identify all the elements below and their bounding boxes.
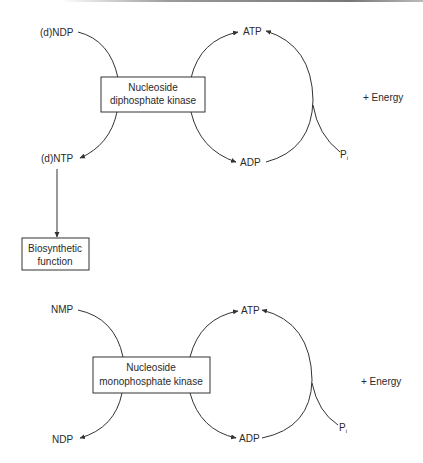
- label-dntp: (d)NTP: [41, 153, 74, 164]
- label-adp: ADP: [240, 157, 261, 168]
- cycle-left-upper-arc: [191, 32, 238, 78]
- label-atp: ATP: [243, 26, 262, 37]
- biosynthetic-label-line2: function: [37, 256, 72, 267]
- label-nmp: NMP: [51, 304, 74, 315]
- phosphate-arc: [312, 383, 338, 425]
- label-adp: ADP: [239, 433, 260, 444]
- enzyme-label-line1: Nucleoside: [126, 362, 176, 373]
- cycle-right-arc: [262, 310, 312, 438]
- substrate-arc: [78, 310, 123, 357]
- panel-nucleoside-monophosphate-kinase: Nucleoside monophosphate kinase NMP NDP …: [51, 304, 401, 445]
- label-pi: Pi: [340, 149, 348, 161]
- product-arc: [80, 112, 117, 158]
- label-ndp: NDP: [52, 434, 73, 445]
- label-pi: Pi: [339, 422, 347, 434]
- label-energy: + Energy: [363, 92, 403, 103]
- cycle-left-upper-arc: [190, 311, 238, 357]
- phosphate-arc: [313, 105, 340, 152]
- substrate-arc: [78, 32, 118, 78]
- kinase-diagram: Nucleoside diphosphate kinase (d)NDP (d)…: [0, 0, 423, 463]
- enzyme-label-line2: monophosphate kinase: [99, 376, 203, 387]
- label-atp: ATP: [241, 305, 260, 316]
- panel-nucleoside-diphosphate-kinase: Nucleoside diphosphate kinase (d)NDP (d)…: [22, 26, 403, 270]
- product-arc: [80, 393, 122, 438]
- biosynthetic-label-line1: Biosynthetic: [28, 243, 82, 254]
- label-energy: + Energy: [361, 376, 401, 387]
- cycle-right-arc: [266, 31, 313, 162]
- enzyme-label-line1: Nucleoside: [128, 82, 178, 93]
- label-dndp: (d)NDP: [40, 27, 74, 38]
- enzyme-label-line2: diphosphate kinase: [110, 95, 197, 106]
- cycle-left-lower-arc: [190, 393, 236, 438]
- cycle-left-lower-arc: [191, 112, 236, 162]
